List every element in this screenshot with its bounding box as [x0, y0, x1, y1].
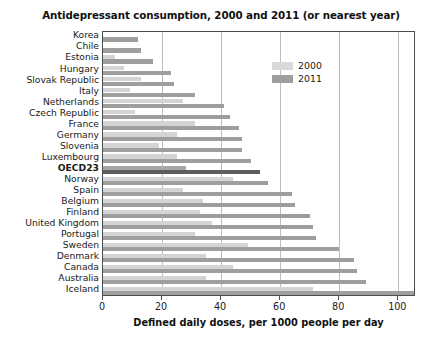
- bar-2011: [103, 59, 153, 63]
- y-axis-category-labels: KoreaChileEstoniaHungarySlovak RepublicI…: [0, 31, 99, 296]
- bar-row: [103, 220, 415, 231]
- category-label: Luxembourg: [0, 152, 99, 163]
- bar-row: [103, 187, 415, 198]
- bar-row: [103, 98, 415, 109]
- category-label: Iceland: [0, 284, 99, 295]
- x-tick-label: 60: [259, 301, 299, 312]
- legend-label: 2000: [298, 60, 322, 71]
- bar-row: [103, 142, 415, 153]
- category-label: United Kingdom: [0, 218, 99, 229]
- x-tick-mark: [338, 296, 339, 300]
- bar-2011: [103, 170, 260, 174]
- bar-row: [103, 65, 415, 76]
- category-label: Estonia: [0, 52, 99, 63]
- bar-2011: [103, 291, 415, 295]
- category-label: Portugal: [0, 229, 99, 240]
- bar-2011: [103, 93, 195, 97]
- bar-row: [103, 43, 415, 54]
- category-label: Denmark: [0, 251, 99, 262]
- x-tick-mark: [102, 296, 103, 300]
- category-label: Sweden: [0, 240, 99, 251]
- x-tick-mark: [161, 296, 162, 300]
- bar-row: [103, 264, 415, 275]
- bar-row: [103, 231, 415, 242]
- bar-row: [103, 242, 415, 253]
- category-label: Hungary: [0, 64, 99, 75]
- category-label: Slovak Republic: [0, 75, 99, 86]
- category-label: Czech Republic: [0, 108, 99, 119]
- category-label: Belgium: [0, 196, 99, 207]
- bar-2011: [103, 82, 174, 86]
- bar-row: [103, 109, 415, 120]
- category-label: Germany: [0, 130, 99, 141]
- bar-2011: [103, 126, 239, 130]
- bar-2011: [103, 159, 251, 163]
- bar-2011: [103, 225, 313, 229]
- bar-row: [103, 165, 415, 176]
- x-tick-label: 40: [200, 301, 240, 312]
- category-label: Slovenia: [0, 141, 99, 152]
- bar-2011: [103, 148, 242, 152]
- x-tick-mark: [279, 296, 280, 300]
- bar-2011: [103, 48, 141, 52]
- bar-row: [103, 54, 415, 65]
- bar-row: [103, 131, 415, 142]
- bar-2011: [103, 104, 224, 108]
- bar-row: [103, 198, 415, 209]
- legend-entry: 2000: [272, 60, 342, 73]
- plot-area: [102, 31, 415, 296]
- bar-row: [103, 253, 415, 264]
- chart-figure: Antidepressant consumption, 2000 and 201…: [0, 0, 442, 340]
- category-label: Chile: [0, 41, 99, 52]
- legend-swatch: [272, 75, 293, 83]
- legend-entry: 2011: [272, 73, 342, 86]
- x-axis-title: Defined daily doses, per 1000 people per…: [102, 317, 415, 328]
- bar-2011: [103, 115, 230, 119]
- x-tick-label: 20: [141, 301, 181, 312]
- category-label: France: [0, 119, 99, 130]
- category-label: Australia: [0, 273, 99, 284]
- bar-row: [103, 76, 415, 87]
- x-tick-label: 100: [377, 301, 417, 312]
- bar-row: [103, 275, 415, 286]
- category-label: Norway: [0, 174, 99, 185]
- x-tick-label: 0: [82, 301, 122, 312]
- bar-row: [103, 120, 415, 131]
- x-tick-mark: [397, 296, 398, 300]
- bar-2011: [103, 192, 292, 196]
- bar-row: [103, 176, 415, 187]
- bar-row: [103, 153, 415, 164]
- bar-2011: [103, 247, 339, 251]
- category-label: Italy: [0, 86, 99, 97]
- chart-title: Antidepressant consumption, 2000 and 201…: [0, 9, 442, 21]
- bar-2011: [103, 258, 354, 262]
- category-label: OECD23: [0, 163, 99, 174]
- bar-2011: [103, 37, 138, 41]
- bar-2011: [103, 280, 366, 284]
- bar-2011: [103, 269, 357, 273]
- bar-2011: [103, 137, 242, 141]
- bar-2011: [103, 181, 268, 185]
- x-tick-mark: [220, 296, 221, 300]
- bar-row: [103, 32, 415, 43]
- category-label: Netherlands: [0, 97, 99, 108]
- category-label: Korea: [0, 30, 99, 41]
- bar-2011: [103, 71, 171, 75]
- chart-legend: 20002011: [272, 60, 342, 86]
- x-tick-label: 80: [318, 301, 358, 312]
- bar-row: [103, 209, 415, 220]
- bar-2011: [103, 203, 295, 207]
- bar-2011: [103, 214, 310, 218]
- category-label: Finland: [0, 207, 99, 218]
- bar-row: [103, 87, 415, 98]
- category-label: Canada: [0, 262, 99, 273]
- legend-swatch: [272, 62, 293, 70]
- legend-label: 2011: [298, 73, 322, 84]
- bar-row: [103, 286, 415, 296]
- bar-2011: [103, 236, 316, 240]
- category-label: Spain: [0, 185, 99, 196]
